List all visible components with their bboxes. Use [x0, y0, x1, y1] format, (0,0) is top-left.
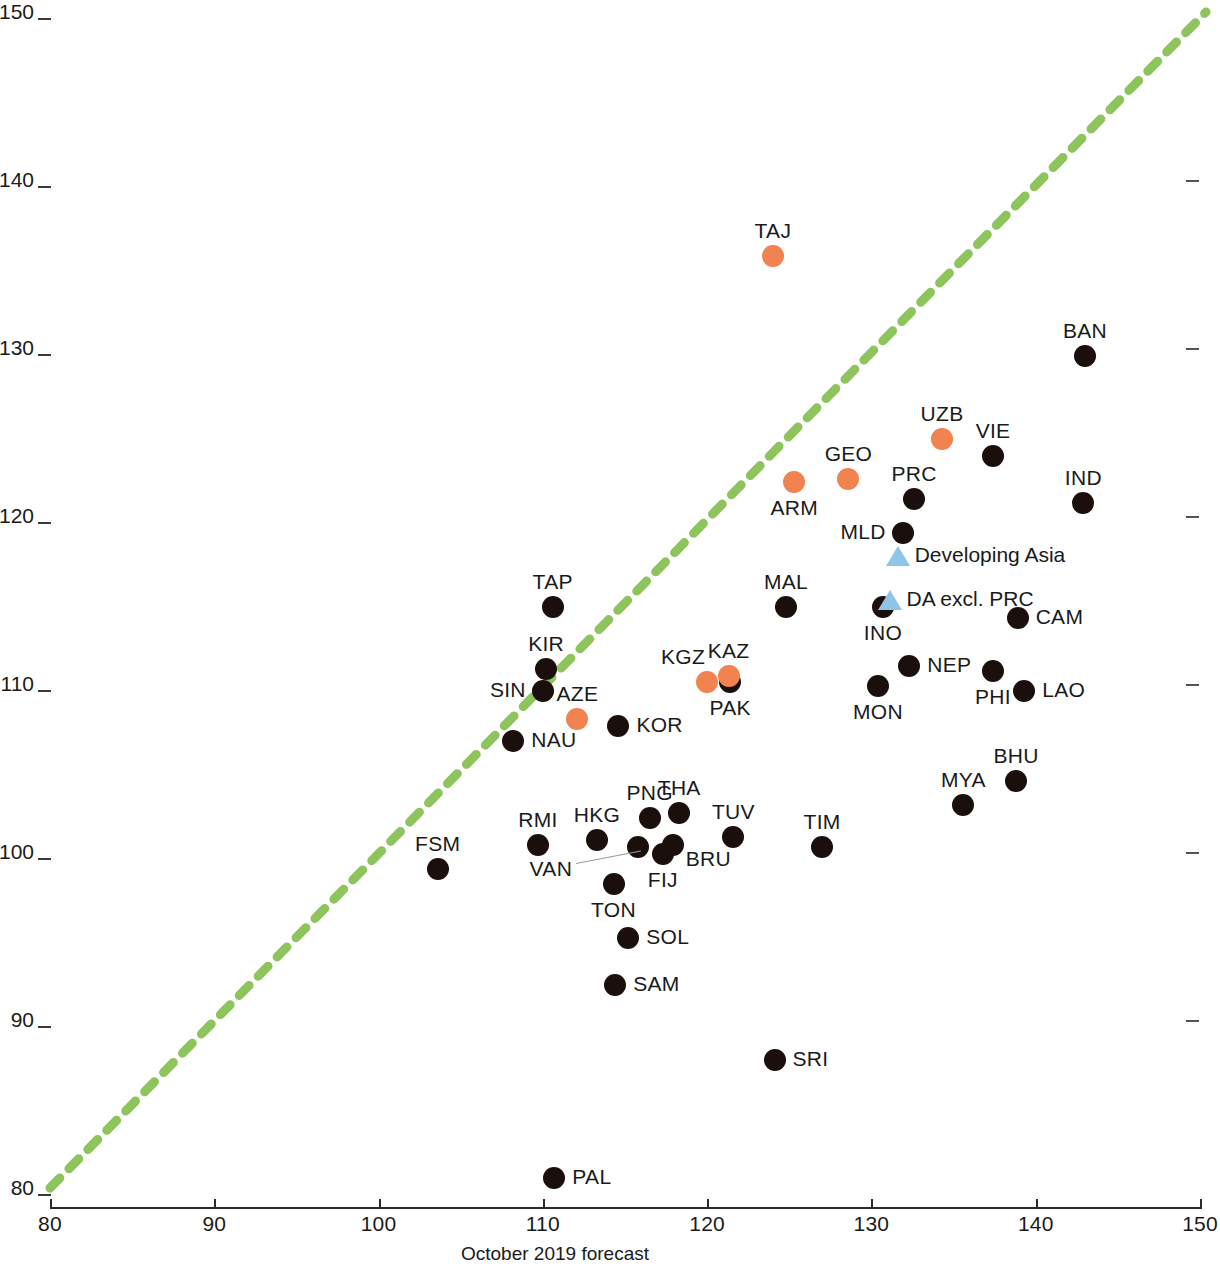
x-tick-label-150: 150 [1182, 1212, 1218, 1236]
data-point-prc[interactable] [903, 488, 925, 510]
x-tick-label-90: 90 [202, 1212, 226, 1236]
data-point-aze[interactable] [566, 708, 588, 730]
y-tick-140 [38, 186, 51, 188]
data-point-kaz[interactable] [718, 665, 740, 687]
y-tick-90 [38, 1026, 51, 1028]
point-label-kor: KOR [636, 713, 682, 737]
data-point-mon[interactable] [867, 675, 889, 697]
point-label-kir: KIR [528, 632, 564, 656]
point-label-nep: NEP [927, 653, 971, 677]
point-label-phi: PHI [975, 685, 1011, 709]
y-tick-label-150: 150 [0, 0, 34, 24]
data-point-sin[interactable] [532, 680, 554, 702]
point-label-tuv: TUV [712, 800, 755, 824]
legend-label-developing-asia: Developing Asia [915, 543, 1066, 567]
data-point-lao[interactable] [1013, 680, 1035, 702]
point-label-tim: TIM [804, 810, 841, 834]
legend-label-da-excl-prc: DA excl. PRC [907, 587, 1034, 611]
point-label-taj: TAJ [755, 219, 792, 243]
data-point-kgz[interactable] [696, 671, 718, 693]
data-point-sri[interactable] [764, 1049, 786, 1071]
point-label-geo: GEO [825, 442, 873, 466]
data-point-png[interactable] [639, 807, 661, 829]
point-label-sin: SIN [490, 678, 526, 702]
data-point-sol[interactable] [617, 927, 639, 949]
point-label-ton: TON [591, 898, 636, 922]
y-tick-110 [38, 690, 51, 692]
x-tick-90 [214, 1199, 216, 1208]
point-label-sam: SAM [633, 972, 679, 996]
data-point-mal[interactable] [775, 596, 797, 618]
data-point-tuv[interactable] [722, 826, 744, 848]
data-point-tim[interactable] [811, 836, 833, 858]
right-tick-100 [1186, 852, 1199, 854]
point-label-sol: SOL [646, 925, 689, 949]
data-point-mya[interactable] [952, 794, 974, 816]
point-label-pal: PAL [572, 1165, 611, 1189]
data-point-rmi[interactable] [527, 834, 549, 856]
x-tick-150 [1200, 1199, 1202, 1208]
data-point-mld[interactable] [892, 522, 914, 544]
data-point-uzb[interactable] [931, 428, 953, 450]
triangle-marker-da-excl-prc[interactable] [878, 590, 902, 610]
data-point-phi[interactable] [982, 660, 1004, 682]
x-tick-label-110: 110 [526, 1212, 560, 1236]
data-point-van[interactable] [627, 836, 649, 858]
point-label-prc: PRC [892, 462, 937, 486]
y-tick-label-90: 90 [11, 1008, 34, 1032]
parity-reference-line [0, 0, 1220, 1268]
y-tick-label-130: 130 [0, 336, 34, 360]
y-tick-label-140: 140 [0, 168, 34, 192]
data-point-taj[interactable] [762, 245, 784, 267]
point-label-aze: AZE [556, 682, 598, 706]
point-label-ino: INO [864, 621, 902, 645]
data-point-kor[interactable] [607, 715, 629, 737]
x-tick-label-140: 140 [1018, 1212, 1054, 1236]
plot-area: 8090100110120130140150 80901001101201301… [0, 0, 1220, 1268]
y-tick-100 [38, 858, 51, 860]
data-point-ind[interactable] [1072, 492, 1094, 514]
x-axis-title-text: October 2019 forecast [461, 1243, 649, 1264]
data-point-tap[interactable] [542, 596, 564, 618]
data-point-fij[interactable] [652, 843, 674, 865]
y-tick-label-100: 100 [0, 840, 34, 864]
data-point-nau[interactable] [502, 730, 524, 752]
data-point-nep[interactable] [898, 655, 920, 677]
leader-line-van [576, 850, 641, 864]
point-label-bhu: BHU [993, 744, 1038, 768]
x-tick-130 [871, 1199, 873, 1208]
x-tick-label-100: 100 [361, 1212, 397, 1236]
data-point-hkg[interactable] [586, 829, 608, 851]
x-axis-line [50, 1207, 1202, 1209]
point-label-van: VAN [530, 857, 573, 881]
data-point-ban[interactable] [1074, 345, 1096, 367]
right-tick-90 [1186, 1020, 1199, 1022]
y-tick-120 [38, 522, 51, 524]
point-label-tap: TAP [533, 570, 573, 594]
point-label-hkg: HKG [574, 803, 620, 827]
point-label-cam: CAM [1036, 605, 1084, 629]
data-point-kir[interactable] [535, 658, 557, 680]
y-tick-130 [38, 354, 51, 356]
x-tick-label-130: 130 [854, 1212, 890, 1236]
data-point-vie[interactable] [982, 445, 1004, 467]
right-tick-110 [1186, 684, 1199, 686]
point-label-rmi: RMI [518, 808, 557, 832]
point-label-bru: BRU [686, 847, 731, 871]
point-label-nau: NAU [531, 728, 576, 752]
right-tick-140 [1186, 180, 1199, 182]
point-label-fsm: FSM [415, 832, 460, 856]
x-tick-110 [543, 1199, 545, 1208]
data-point-bhu[interactable] [1005, 770, 1027, 792]
point-label-mya: MYA [941, 768, 986, 792]
data-point-geo[interactable] [837, 468, 859, 490]
data-point-arm[interactable] [783, 471, 805, 493]
point-label-vie: VIE [976, 419, 1011, 443]
x-tick-120 [707, 1199, 709, 1208]
data-point-fsm[interactable] [427, 858, 449, 880]
data-point-tha[interactable] [668, 802, 690, 824]
triangle-marker-developing-asia[interactable] [886, 546, 910, 566]
data-point-sam[interactable] [604, 974, 626, 996]
data-point-ton[interactable] [603, 873, 625, 895]
data-point-pal[interactable] [543, 1167, 565, 1189]
